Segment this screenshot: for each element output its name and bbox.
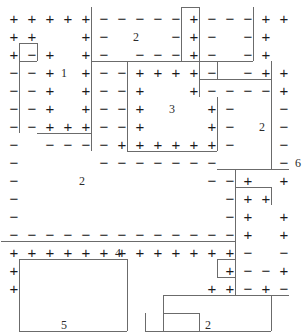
cell-minus[interactable]: − (5, 208, 23, 226)
cell-minus[interactable]: − (257, 82, 275, 100)
cell-minus[interactable]: − (95, 136, 113, 154)
cell-plus[interactable]: + (77, 82, 95, 100)
cell-minus[interactable]: − (113, 154, 131, 172)
cell-plus[interactable]: + (131, 82, 149, 100)
cell-minus[interactable]: − (221, 118, 239, 136)
cell-minus[interactable]: − (221, 100, 239, 118)
cell-plus[interactable]: + (131, 118, 149, 136)
cell-minus[interactable]: − (95, 82, 113, 100)
cell-minus[interactable]: − (167, 154, 185, 172)
cell-minus[interactable]: − (113, 100, 131, 118)
cell-minus[interactable]: − (275, 244, 293, 262)
cell-plus[interactable]: + (77, 100, 95, 118)
cell-minus[interactable]: − (203, 28, 221, 46)
cell-plus[interactable]: + (257, 46, 275, 64)
cell-plus[interactable]: + (5, 10, 23, 28)
cell-plus[interactable]: + (5, 280, 23, 298)
cell-minus[interactable]: − (5, 154, 23, 172)
cell-minus[interactable]: − (203, 82, 221, 100)
cell-minus[interactable]: − (239, 244, 257, 262)
cell-minus[interactable]: − (5, 64, 23, 82)
cell-minus[interactable]: − (5, 100, 23, 118)
cell-minus[interactable]: − (167, 10, 185, 28)
cell-plus[interactable]: + (275, 208, 293, 226)
cell-minus[interactable]: − (5, 118, 23, 136)
cell-minus[interactable]: − (131, 154, 149, 172)
cell-minus[interactable]: − (257, 262, 275, 280)
cell-minus[interactable]: − (23, 82, 41, 100)
cell-minus[interactable]: − (221, 82, 239, 100)
cell-plus[interactable]: + (41, 100, 59, 118)
cell-plus[interactable]: + (131, 64, 149, 82)
cell-minus[interactable]: − (203, 172, 221, 190)
cell-plus[interactable]: + (257, 28, 275, 46)
cell-minus[interactable]: − (113, 118, 131, 136)
cell-minus[interactable]: − (95, 100, 113, 118)
cell-minus[interactable]: − (41, 136, 59, 154)
cell-plus[interactable]: + (203, 118, 221, 136)
cell-minus[interactable]: − (149, 154, 167, 172)
cell-minus[interactable]: − (113, 10, 131, 28)
cell-minus[interactable]: − (275, 118, 293, 136)
cell-minus[interactable]: − (275, 100, 293, 118)
cell-plus[interactable]: + (203, 100, 221, 118)
cell-plus[interactable]: + (77, 28, 95, 46)
cell-minus[interactable]: − (221, 136, 239, 154)
cell-plus[interactable]: + (149, 64, 167, 82)
cell-minus[interactable]: − (23, 64, 41, 82)
cell-minus[interactable]: − (239, 28, 257, 46)
cell-plus[interactable]: + (77, 10, 95, 28)
cell-plus[interactable]: + (275, 262, 293, 280)
cell-minus[interactable]: − (5, 136, 23, 154)
cell-plus[interactable]: + (239, 208, 257, 226)
cell-minus[interactable]: − (167, 28, 185, 46)
cell-minus[interactable]: − (239, 10, 257, 28)
cell-plus[interactable]: + (131, 100, 149, 118)
cell-minus[interactable]: − (239, 262, 257, 280)
cell-plus[interactable]: + (59, 10, 77, 28)
cell-plus[interactable]: + (275, 82, 293, 100)
cell-minus[interactable]: − (59, 136, 77, 154)
cell-minus[interactable]: − (239, 82, 257, 100)
cell-minus[interactable]: − (95, 154, 113, 172)
cell-plus[interactable]: + (275, 64, 293, 82)
cell-minus[interactable]: − (221, 208, 239, 226)
cell-minus[interactable]: − (185, 154, 203, 172)
cell-plus[interactable]: + (41, 46, 59, 64)
cell-plus[interactable]: + (185, 10, 203, 28)
cell-minus[interactable]: − (275, 136, 293, 154)
cell-plus[interactable]: + (275, 10, 293, 28)
cell-minus[interactable]: − (77, 136, 95, 154)
cell-plus[interactable]: + (257, 190, 275, 208)
cell-plus[interactable]: + (131, 244, 149, 262)
cell-plus[interactable]: + (41, 82, 59, 100)
cell-plus[interactable]: + (239, 190, 257, 208)
cell-plus[interactable]: + (23, 10, 41, 28)
cell-plus[interactable]: + (167, 244, 185, 262)
cell-minus[interactable]: − (95, 118, 113, 136)
cell-plus[interactable]: + (275, 172, 293, 190)
cell-plus[interactable]: + (167, 64, 185, 82)
cell-minus[interactable]: − (113, 82, 131, 100)
cell-plus[interactable]: + (239, 226, 257, 244)
cell-minus[interactable]: − (5, 190, 23, 208)
cell-minus[interactable]: − (95, 28, 113, 46)
cell-minus[interactable]: − (203, 10, 221, 28)
cell-minus[interactable]: − (221, 190, 239, 208)
cell-minus[interactable]: − (23, 100, 41, 118)
cell-plus[interactable]: + (185, 244, 203, 262)
cell-plus[interactable]: + (275, 226, 293, 244)
cell-plus[interactable]: + (185, 28, 203, 46)
cell-minus[interactable]: − (5, 172, 23, 190)
cell-minus[interactable]: − (131, 10, 149, 28)
cell-plus[interactable]: + (257, 10, 275, 28)
cell-minus[interactable]: − (113, 64, 131, 82)
cell-minus[interactable]: − (5, 82, 23, 100)
cell-plus[interactable]: + (5, 262, 23, 280)
cell-minus[interactable]: − (149, 10, 167, 28)
cell-plus[interactable]: + (77, 64, 95, 82)
cell-minus[interactable]: − (95, 64, 113, 82)
cell-plus[interactable]: + (41, 10, 59, 28)
cell-plus[interactable]: + (185, 82, 203, 100)
cell-plus[interactable]: + (149, 244, 167, 262)
